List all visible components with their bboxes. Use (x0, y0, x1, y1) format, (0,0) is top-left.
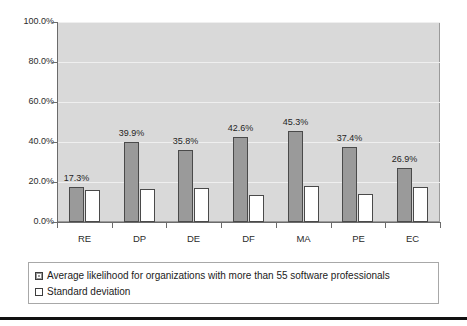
chart-legend: Average likelihood for organizations wit… (28, 262, 439, 304)
x-axis-tick-mark (166, 223, 167, 228)
y-axis-line (57, 22, 58, 223)
x-axis-tick-mark (385, 223, 386, 228)
bottom-divider-rule (0, 317, 467, 320)
bar-average-likelihood (69, 187, 84, 222)
x-axis-line (57, 222, 441, 223)
bar-standard-deviation (413, 187, 428, 222)
bar-standard-deviation (304, 186, 319, 222)
x-axis-tick-mark (276, 223, 277, 228)
legend-swatch-white-square-icon (35, 288, 43, 296)
bar-data-label: 39.9% (112, 128, 151, 138)
bar-standard-deviation (249, 195, 264, 222)
gridline (57, 62, 440, 63)
y-axis-tick-mark (52, 62, 57, 63)
bar-data-label: 37.4% (330, 133, 369, 143)
gridline (57, 142, 440, 143)
x-axis-tick-mark (112, 223, 113, 228)
y-axis-tick-label: 20.0% (0, 177, 54, 186)
bar-data-label: 45.3% (276, 117, 315, 127)
y-axis-tick-label: 60.0% (0, 97, 54, 106)
gridline (57, 22, 440, 23)
x-axis-tick-mark (57, 223, 58, 228)
bar-average-likelihood (397, 168, 412, 222)
x-axis-category-label: PE (331, 233, 386, 244)
bar-data-label: 26.9% (385, 154, 424, 164)
bar-average-likelihood (178, 150, 193, 222)
x-axis-category-label: EC (385, 233, 440, 244)
x-axis-category-label: DF (221, 233, 276, 244)
bar-data-label: 35.8% (166, 136, 205, 146)
x-axis-category-label: RE (57, 233, 112, 244)
plot-area (57, 22, 440, 222)
y-axis-tick-mark (52, 102, 57, 103)
bar-standard-deviation (358, 194, 373, 222)
bar-standard-deviation (194, 188, 209, 222)
y-axis-tick-label: 40.0% (0, 137, 54, 146)
bar-average-likelihood (124, 142, 139, 222)
legend-item-average-likelihood: Average likelihood for organizations wit… (35, 268, 438, 284)
plot-wrapper: 100.0%80.0%60.0%40.0%20.0%0.0% REDPDEDFM… (0, 0, 467, 256)
bar-data-label: 17.3% (57, 173, 96, 183)
y-axis-tick-label: 0.0% (0, 217, 54, 226)
legend-label-standard-deviation: Standard deviation (47, 286, 130, 298)
x-axis-category-label: DE (166, 233, 221, 244)
bar-standard-deviation (85, 190, 100, 222)
x-axis-category-label: DP (112, 233, 167, 244)
x-axis-tick-mark (440, 223, 441, 228)
bar-data-label: 42.6% (221, 123, 260, 133)
y-axis-tick-label: 80.0% (0, 57, 54, 66)
legend-label-average-likelihood: Average likelihood for organizations wit… (47, 270, 390, 282)
x-axis-tick-mark (331, 223, 332, 228)
bar-chart-figure: 100.0%80.0%60.0%40.0%20.0%0.0% REDPDEDFM… (0, 0, 467, 326)
gridline (57, 182, 440, 183)
legend-swatch-gray-filled-square-icon (35, 272, 43, 280)
bar-average-likelihood (233, 137, 248, 222)
x-axis-category-label: MA (276, 233, 331, 244)
y-axis-tick-label: 100.0% (0, 17, 54, 26)
y-axis-tick-mark (52, 22, 57, 23)
legend-item-standard-deviation: Standard deviation (35, 284, 438, 300)
bar-average-likelihood (342, 147, 357, 222)
y-axis-tick-mark (52, 142, 57, 143)
x-axis-tick-mark (221, 223, 222, 228)
bar-standard-deviation (140, 189, 155, 222)
bar-average-likelihood (288, 131, 303, 222)
gridline (57, 102, 440, 103)
